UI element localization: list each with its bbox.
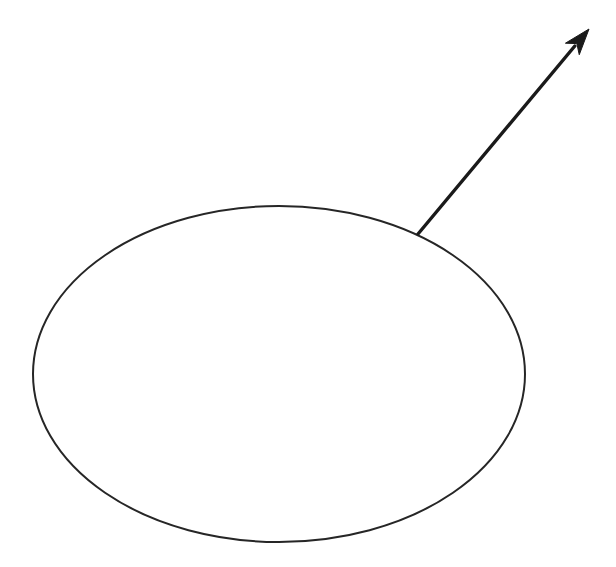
drawing-canvas: Ellipse with outward pointing arrow A pl…: [0, 0, 616, 567]
figure-svg: [0, 0, 616, 567]
canvas-background: [0, 0, 616, 567]
